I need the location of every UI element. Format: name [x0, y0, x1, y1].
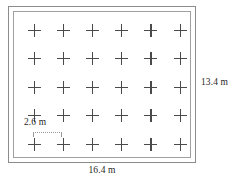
plus-mark: [115, 24, 128, 37]
plus-mark: [57, 138, 70, 151]
plus-mark: [57, 109, 70, 122]
plus-mark: [57, 52, 70, 65]
spacing-dimension-label: 2.6 m: [24, 117, 46, 127]
plus-mark: [86, 109, 99, 122]
plus-mark: [57, 81, 70, 94]
plus-mark: [174, 52, 187, 65]
plus-mark: [174, 109, 187, 122]
plus-mark: [86, 81, 99, 94]
plus-mark: [86, 24, 99, 37]
spacing-dimension-line: [33, 132, 62, 137]
plus-mark: [144, 138, 157, 151]
plot-diagram: 2.6 m 13.4 m 16.4 m: [0, 0, 238, 181]
plus-mark: [174, 24, 187, 37]
plus-mark: [28, 138, 41, 151]
plus-mark: [115, 138, 128, 151]
plus-mark: [174, 138, 187, 151]
plus-mark: [28, 81, 41, 94]
plus-mark: [115, 52, 128, 65]
dimension-tick-left: [33, 132, 34, 137]
plus-mark: [86, 138, 99, 151]
plus-mark: [28, 52, 41, 65]
plant-mark-grid: [0, 0, 238, 181]
plus-mark: [115, 81, 128, 94]
plus-mark: [115, 109, 128, 122]
plus-mark: [174, 81, 187, 94]
width-dimension-label: 16.4 m: [0, 165, 204, 175]
plus-mark: [144, 24, 157, 37]
plus-mark: [28, 24, 41, 37]
plus-mark: [144, 109, 157, 122]
height-dimension-label: 13.4 m: [201, 77, 228, 87]
dimension-tick-right: [61, 132, 62, 137]
plus-mark: [57, 24, 70, 37]
plus-mark: [144, 52, 157, 65]
dimension-bar: [33, 132, 62, 133]
plus-mark: [86, 52, 99, 65]
plus-mark: [144, 81, 157, 94]
